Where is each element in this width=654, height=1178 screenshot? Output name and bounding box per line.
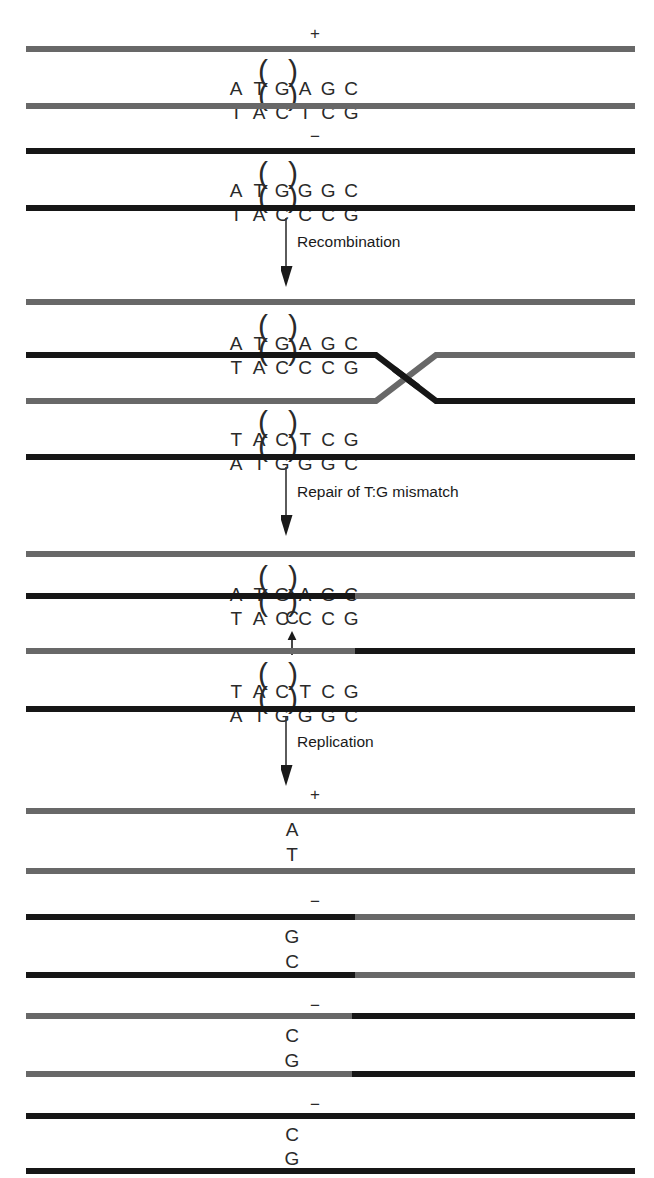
allele-marker-plus-parent: + [303, 25, 327, 42]
gene-conversion-diagram: + ATGAGC TACTCG ( ) ( ) − ATGGGC TACCCG … [0, 0, 654, 1178]
base: G [340, 609, 363, 628]
polymorphic-site-parentheses: ( [258, 586, 268, 616]
product-4-top-base: C [281, 1125, 303, 1144]
strand-prod1-bottom [26, 868, 635, 874]
strand-r2-top-recombinant [26, 648, 635, 654]
replication-arrow [281, 717, 307, 787]
product-1-top-base: A [281, 820, 303, 839]
allele-marker-product-1: + [303, 786, 327, 803]
strand-crossover-junction [26, 352, 635, 404]
strand-prod3-bottom [26, 1071, 635, 1077]
strand-r2-bottom [26, 706, 635, 712]
step-label-replication: Replication [297, 733, 374, 750]
allele-marker-minus-parent: − [303, 128, 327, 145]
recombination-arrow [281, 218, 307, 288]
product-4-bottom-base: G [281, 1149, 303, 1168]
strand-r1-bottom-recombinant [26, 593, 635, 599]
repair-arrow [281, 467, 307, 537]
allele-marker-product-3: − [303, 997, 327, 1014]
strand-p2-top [26, 148, 635, 154]
allele-marker-product-4: − [303, 1096, 327, 1113]
product-3-bottom-base: G [281, 1051, 303, 1070]
base: C [317, 609, 340, 628]
product-1-bottom-base: T [281, 845, 303, 864]
strand-prod4-bottom [26, 1168, 635, 1174]
strand-prod3-top [26, 1013, 635, 1019]
strand-h1-top [26, 299, 635, 305]
strand-prod2-top [26, 914, 635, 920]
product-2-bottom-base: C [281, 952, 303, 971]
strand-p1-top [26, 46, 635, 52]
strand-r1-top [26, 551, 635, 557]
product-2-top-base: G [281, 927, 303, 946]
strand-p1-bottom [26, 103, 635, 109]
product-3-top-base: C [281, 1026, 303, 1045]
strand-h2-bottom [26, 454, 635, 460]
strand-prod2-bottom [26, 972, 635, 978]
allele-marker-product-2: − [303, 893, 327, 910]
base: T [225, 609, 248, 628]
strand-p2-bottom [26, 205, 635, 211]
step-label-recombination: Recombination [297, 233, 400, 250]
strand-prod4-top [26, 1113, 635, 1119]
step-label-repair: Repair of T:G mismatch [297, 483, 459, 500]
repair-base-callout: C [281, 608, 303, 627]
strand-prod1-top [26, 808, 635, 814]
